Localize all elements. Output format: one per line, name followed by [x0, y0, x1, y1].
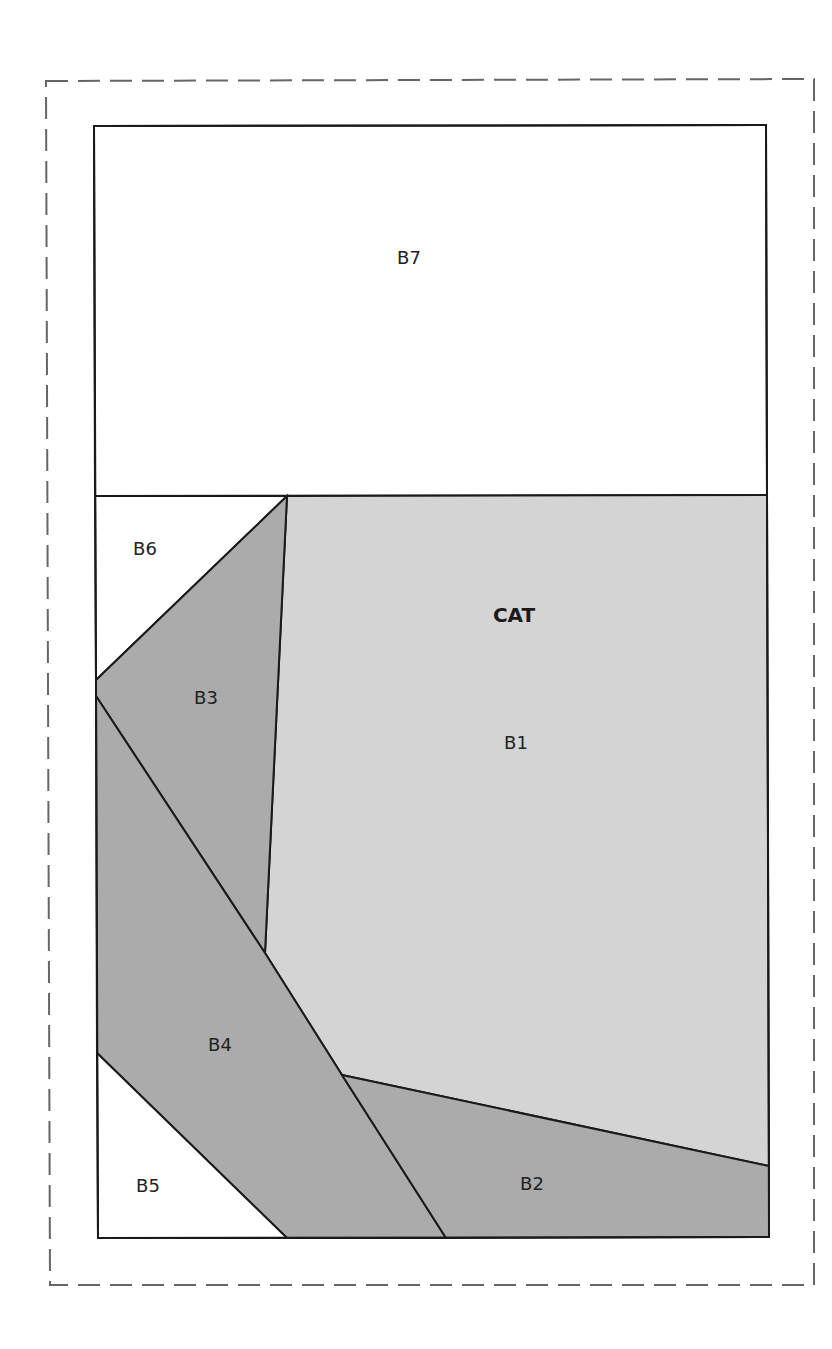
label-b6: B6 [133, 538, 157, 559]
label-b1: B1 [504, 732, 528, 753]
pattern-diagram: B7 B6 CAT B3 B1 B4 B5 B2 [0, 0, 832, 1349]
label-b2: B2 [520, 1173, 544, 1194]
label-b7: B7 [397, 247, 421, 268]
section-title: CAT [493, 603, 536, 627]
label-b4: B4 [208, 1034, 232, 1055]
label-b3: B3 [194, 687, 218, 708]
piece-b7 [94, 125, 767, 496]
label-b5: B5 [136, 1175, 160, 1196]
piece-b1 [265, 495, 769, 1166]
